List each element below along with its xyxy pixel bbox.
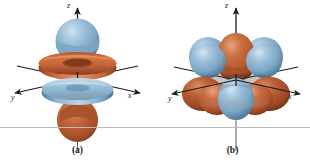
panel-a: z x y (a): [0, 0, 155, 167]
caption-panel-a: (a): [0, 146, 155, 156]
figure-separator-line: [0, 127, 310, 128]
panel-b-graphic: [155, 0, 310, 167]
panel-a-graphic: [0, 0, 155, 167]
axis-label-z-panel-a: z: [67, 2, 70, 10]
orbital-figure: z x y (a): [0, 0, 310, 167]
axis-label-x-panel-b: x: [288, 93, 292, 101]
caption-panel-b: (b): [155, 146, 310, 156]
axis-label-x-panel-a: x: [128, 92, 132, 100]
axis-label-y-panel-b: y: [168, 95, 172, 103]
axis-label-z-panel-b: z: [225, 2, 228, 10]
panel-b: z x y (b): [155, 0, 310, 167]
axis-label-y-panel-a: y: [11, 94, 15, 102]
